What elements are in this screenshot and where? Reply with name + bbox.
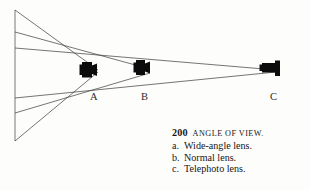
ray-wide-lower: [15, 72, 98, 141]
ray-normal-lower: [15, 73, 150, 113]
caption-text-b: Normal lens.: [184, 152, 236, 163]
ray-wide-upper: [15, 10, 98, 70]
camera-b-icon: [134, 60, 151, 75]
caption-marker-a: a.: [172, 140, 184, 152]
caption-marker-c: c.: [172, 163, 184, 175]
caption-marker-b: b.: [172, 152, 184, 164]
figure-root: A B C 200ANGLE OF VIEW. a.Wide-angle len…: [0, 0, 310, 190]
caption-item-b: b.Normal lens.: [172, 152, 308, 164]
ray-group: [15, 10, 276, 141]
caption-figure-number: 200: [172, 127, 188, 138]
camera-label-a: A: [90, 92, 98, 103]
camera-label-b: B: [141, 92, 148, 103]
caption-item-c: c.Telephoto lens.: [172, 163, 308, 175]
figure-caption: 200ANGLE OF VIEW. a.Wide-angle lens. b.N…: [172, 127, 308, 175]
caption-heading: 200ANGLE OF VIEW.: [172, 127, 308, 140]
camera-label-c: C: [270, 92, 277, 103]
caption-text-a: Wide-angle lens.: [184, 140, 252, 151]
caption-text-c: Telephoto lens.: [184, 163, 246, 174]
caption-item-a: a.Wide-angle lens.: [172, 140, 308, 152]
caption-figure-title: ANGLE OF VIEW.: [193, 129, 264, 138]
